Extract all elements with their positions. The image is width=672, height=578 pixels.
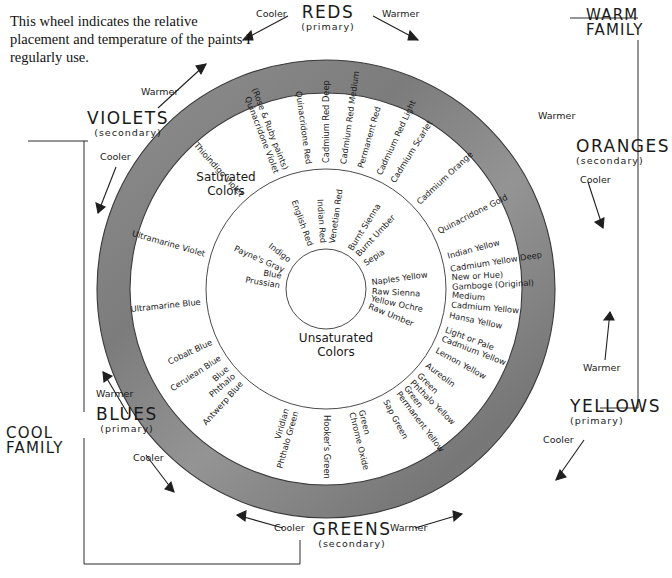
- saturated-paint-label: Cadmium Red Deep: [321, 80, 331, 163]
- cool-family-heading: COOL FAMILY: [6, 426, 64, 456]
- family-name-yellows: YELLOWS: [570, 396, 662, 416]
- temp-label-oranges-warmer: Warmer: [538, 110, 575, 121]
- family-sub-violets: (secondary): [83, 127, 173, 138]
- warm-family-heading: WARM FAMILY: [586, 8, 644, 38]
- temp-label-reds-warmer: Warmer: [382, 8, 419, 19]
- temp-label-reds-cooler: Cooler: [256, 8, 287, 19]
- family-heading-reds: REDS (primary): [288, 2, 368, 32]
- family-name-violets: VIOLETS: [83, 108, 173, 128]
- family-heading-yellows: YELLOWS (primary): [570, 396, 662, 426]
- family-name-reds: REDS: [288, 2, 368, 22]
- temp-label-blues-cooler: Cooler: [133, 452, 164, 463]
- family-heading-blues: BLUES (primary): [89, 404, 165, 434]
- temp-label-oranges-cooler: Cooler: [580, 174, 611, 185]
- family-sub-reds: (primary): [288, 21, 368, 32]
- cool-family-line2: FAMILY: [6, 439, 64, 457]
- family-sub-oranges: (secondary): [576, 155, 672, 166]
- family-sub-yellows: (primary): [570, 415, 662, 426]
- unsaturated-title-line1: Unsaturated: [299, 331, 373, 345]
- saturated-colors-title: Saturated Colors: [181, 170, 271, 198]
- saturated-paint-label: Hooker's Green: [322, 415, 332, 479]
- unsaturated-title-line2: Colors: [317, 345, 355, 359]
- saturated-title-line2: Colors: [207, 184, 245, 198]
- warm-family-line2: FAMILY: [586, 21, 644, 39]
- family-name-oranges: ORANGES: [576, 136, 672, 156]
- family-heading-violets: VIOLETS (secondary): [83, 108, 173, 138]
- temp-label-blues-warmer: Warmer: [96, 388, 133, 399]
- family-name-blues: BLUES: [89, 404, 165, 424]
- figure-caption: This wheel indicates the relative placem…: [10, 12, 260, 66]
- temp-label-greens-cooler: Cooler: [274, 522, 305, 533]
- family-heading-greens: GREENS (secondary): [309, 519, 395, 549]
- family-name-greens: GREENS: [309, 519, 395, 539]
- saturated-title-line1: Saturated: [196, 170, 255, 184]
- temp-label-yellows-warmer: Warmer: [583, 362, 620, 373]
- temp-label-yellows-cooler: Cooler: [543, 434, 574, 445]
- family-heading-oranges: ORANGES (secondary): [576, 136, 672, 166]
- family-sub-greens: (secondary): [309, 538, 395, 549]
- temp-label-greens-warmer: Warmer: [390, 522, 427, 533]
- temp-label-violets-cooler: Cooler: [100, 151, 131, 162]
- family-sub-blues: (primary): [89, 423, 165, 434]
- unsaturated-colors-title: Unsaturated Colors: [281, 331, 391, 359]
- temp-label-violets-warmer: Warmer: [141, 86, 178, 97]
